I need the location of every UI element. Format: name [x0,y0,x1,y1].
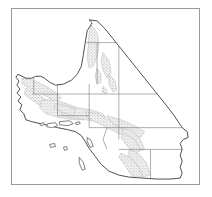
figure-root: Southern California county map with shad… [0,0,212,197]
san-clemente-island [79,157,85,170]
santa-barbara-island [63,146,67,150]
map-frame [11,8,200,185]
southern-california-map [12,9,199,184]
san-nicolas-island [50,143,56,147]
